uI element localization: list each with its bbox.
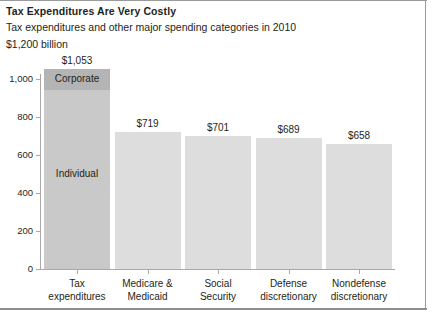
bar-segment-corporate[interactable]: Corporate [44,69,110,90]
bar-segment-label-corporate: Corporate [44,73,110,84]
y-axis-line [40,74,41,270]
x-axis-tick-mark [289,270,290,274]
y-axis-tick-label: 600 [0,150,33,160]
bar[interactable] [115,132,181,269]
y-axis-tick-text: 400 [3,188,33,198]
x-axis-tick-mark [148,270,149,274]
y-axis-tick-mark [36,155,40,156]
bar[interactable] [256,138,322,269]
y-axis-tick-label: 200 [0,226,33,236]
bar[interactable] [185,136,251,269]
x-axis-tick-mark [218,270,219,274]
y-axis-tick-label: 800 [0,112,33,122]
category-label-line: discretionary [314,291,404,304]
bar-value-label: $701 [185,122,251,133]
y-axis-tick-text: 600 [3,150,33,160]
x-axis-tick-mark [359,270,360,274]
y-axis-tick-text: 800 [3,112,33,122]
y-axis-tick-text: 0 [3,264,33,274]
y-axis-tick-text: 1,000 [3,74,33,84]
bar-value-label: $1,053 [44,55,110,66]
bar-value-label: $658 [326,130,392,141]
figure-container: Tax Expenditures Are Very Costly Tax exp… [0,0,447,317]
y-axis-tick-text: 200 [3,226,33,236]
bar-segment-label-individual: Individual [44,168,110,179]
y-axis-tick-mark [36,117,40,118]
y-axis-tick-label: 400 [0,188,33,198]
y-axis-tick-mark [36,79,40,80]
bar-segment-individual[interactable]: Individual [44,90,110,269]
y-axis-tick-mark [36,269,40,270]
bar-value-label: $689 [256,124,322,135]
x-axis-category-label: Nondefensediscretionary [314,278,404,303]
bar-value-label: $719 [115,118,181,129]
y-axis-tick-label: 1,000 [0,74,33,84]
y-axis-tick-mark [36,231,40,232]
bar[interactable] [326,144,392,269]
bar[interactable]: CorporateIndividual [44,69,110,269]
plot-area: 02004006008001,000 CorporateIndividual $… [0,0,447,317]
y-axis-tick-mark [36,193,40,194]
y-axis-tick-label: 0 [0,264,33,274]
x-axis-tick-mark [77,270,78,274]
category-label-line: Nondefense [314,278,404,291]
